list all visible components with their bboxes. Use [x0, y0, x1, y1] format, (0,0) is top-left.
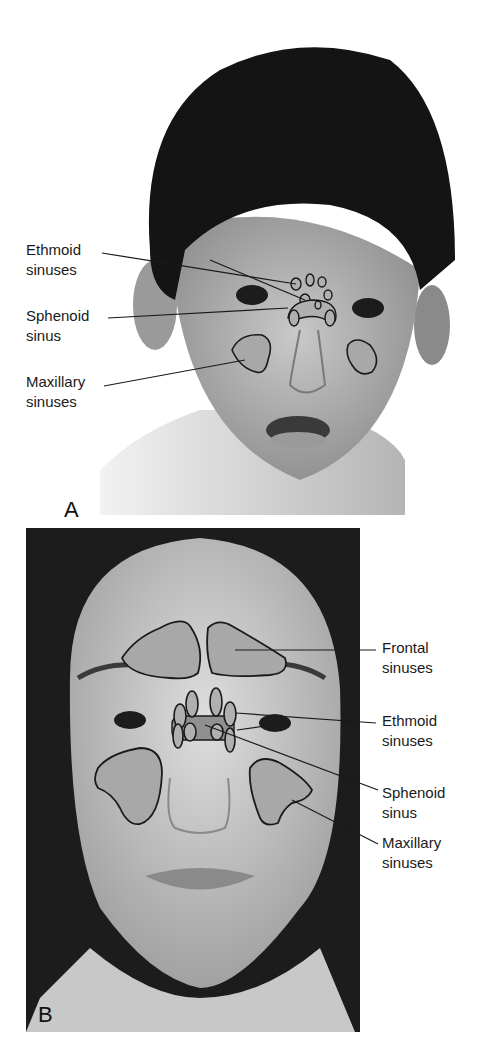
label-ethmoid-sinuses-b: Ethmoid sinuses: [382, 711, 437, 751]
right-eye: [352, 298, 384, 318]
right-ear: [414, 285, 450, 365]
panel-letter-a: A: [64, 497, 79, 523]
panel-letter-b: B: [38, 1002, 53, 1028]
label-ethmoid-sinuses-a: Ethmoid sinuses: [26, 240, 81, 280]
label-sphenoid-sinus-a: Sphenoid sinus: [26, 306, 89, 346]
panel-a: Ethmoid sinuses Sphenoid sinus Maxillary…: [0, 0, 484, 520]
panel-b: Frontal sinuses Ethmoid sinuses Sphenoid…: [0, 528, 484, 1057]
label-maxillary-sinuses-a: Maxillary sinuses: [26, 372, 85, 412]
left-eye: [236, 285, 268, 305]
label-sphenoid-sinus-b: Sphenoid sinus: [382, 783, 445, 823]
label-frontal-sinuses-b: Frontal sinuses: [382, 638, 433, 678]
label-maxillary-sinuses-b: Maxillary sinuses: [382, 833, 441, 873]
left-eye: [114, 711, 146, 729]
